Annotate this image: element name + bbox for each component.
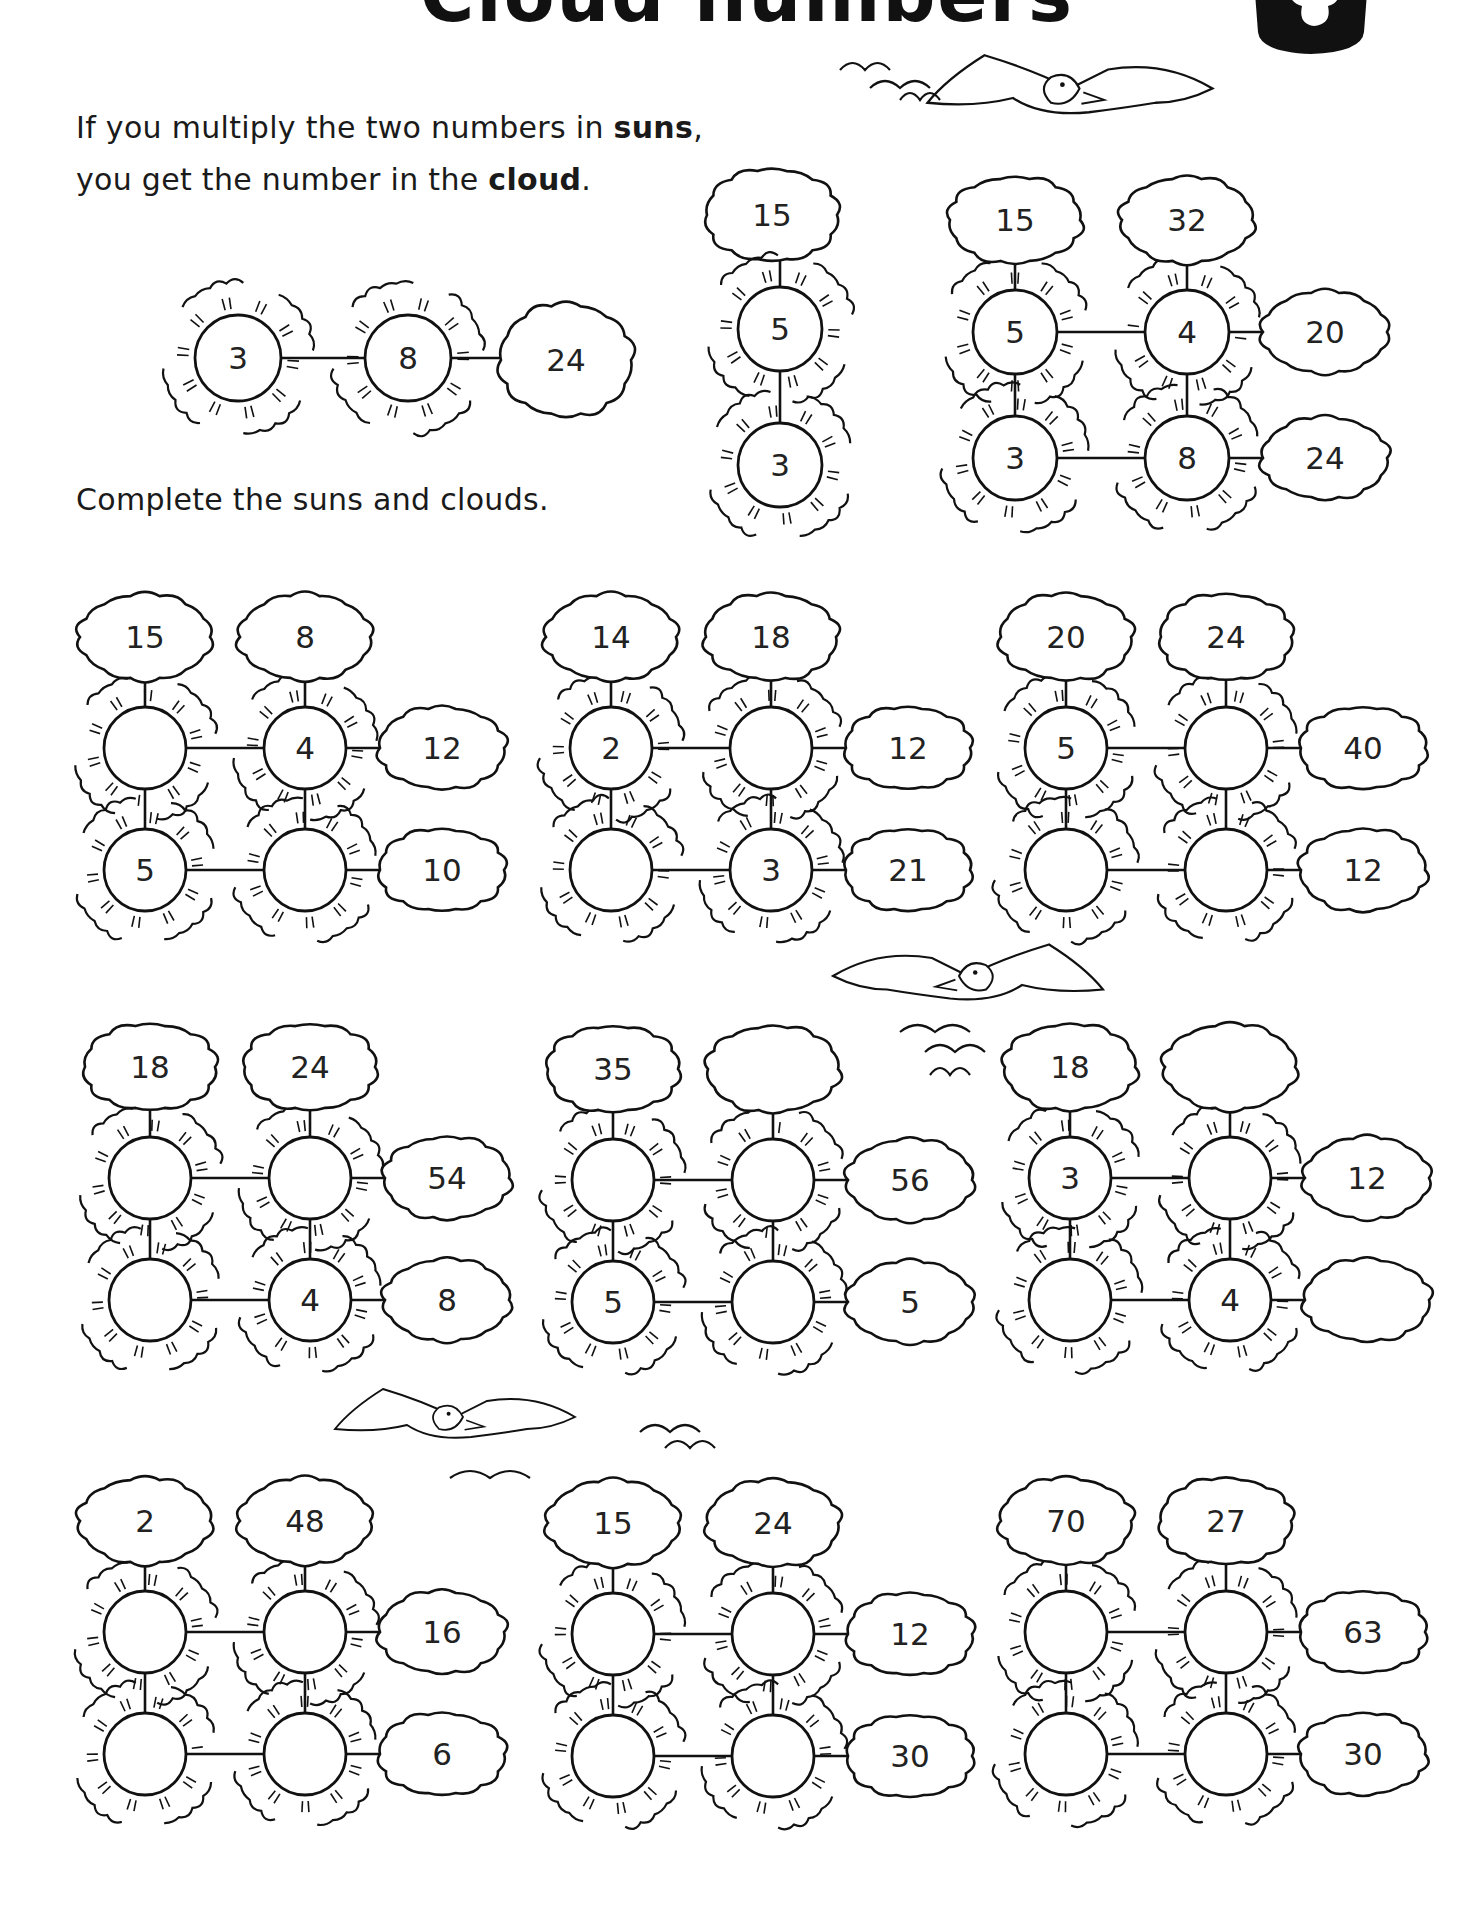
cloud-number: 24 — [753, 1505, 792, 1541]
cloud-top-left: 15 — [544, 1478, 681, 1569]
sun-number: 3 — [770, 447, 790, 483]
bird-icon — [335, 1389, 575, 1438]
sun-icon — [572, 1139, 654, 1221]
sun-number: 4 — [1220, 1282, 1240, 1318]
cloud-number: 16 — [422, 1614, 461, 1650]
cloud-number: 12 — [888, 730, 927, 766]
sun-icon — [1029, 1259, 1111, 1341]
wind-wave-icon — [930, 1068, 970, 1075]
cloud-number: 40 — [1343, 730, 1382, 766]
wind-wave-icon — [665, 1441, 715, 1448]
cloud-number: 20 — [1046, 619, 1085, 655]
sun-number: 3 — [1060, 1160, 1080, 1196]
cloud-number: 48 — [285, 1503, 324, 1539]
sun-icon — [104, 1591, 186, 1673]
puzzle-artwork: 38241553543815322024 4515812102314181221… — [0, 0, 1484, 1921]
cloud-right-bottom: 24 — [1259, 415, 1390, 500]
cloud-top-right: 27 — [1159, 1477, 1295, 1564]
sun-icon — [572, 1715, 654, 1797]
cloud-top-left: 70 — [997, 1476, 1135, 1565]
puzzles-group: 4515812102314181221520244012418245485355… — [75, 592, 1433, 1830]
sun-number: 3 — [761, 852, 781, 888]
sun-number: 3 — [1005, 440, 1025, 476]
sun-icon — [264, 1713, 346, 1795]
sun-number: 5 — [603, 1284, 623, 1320]
sun-icon — [1185, 1713, 1267, 1795]
example-column: 1553 — [705, 169, 854, 536]
sun-icon — [104, 707, 186, 789]
sun-icon — [1185, 829, 1267, 911]
cloud-right-bottom[interactable] — [1301, 1257, 1432, 1342]
cloud-number: 56 — [890, 1162, 929, 1198]
cloud-top-left: 35 — [546, 1026, 681, 1112]
cloud-number: 63 — [1343, 1614, 1382, 1650]
cloud-number: 15 — [125, 619, 164, 655]
wind-wave-icon — [870, 81, 930, 88]
cloud-number: 5 — [900, 1284, 920, 1320]
cloud-number: 27 — [1206, 1503, 1245, 1539]
example-cloud: 24 — [497, 302, 635, 418]
example-row: 3824 — [163, 279, 635, 436]
wind-wave-icon — [840, 63, 890, 70]
cloud-number: 12 — [1347, 1160, 1386, 1196]
sun-icon — [732, 1593, 814, 1675]
cloud-top-left: 14 — [542, 592, 679, 682]
cloud-top-right[interactable] — [1161, 1022, 1298, 1112]
sun-number: 5 — [1056, 730, 1076, 766]
sun-icon — [1025, 829, 1107, 911]
sun-icon — [732, 1261, 814, 1343]
puzzle-5: 535565 — [539, 1025, 975, 1374]
cloud-number: 2 — [135, 1503, 155, 1539]
sun-icon — [264, 829, 346, 911]
wind-wave-icon — [450, 1471, 530, 1478]
wind-wave-icon — [900, 1025, 970, 1032]
cloud-top-right: 24 — [1159, 594, 1294, 680]
cloud-top-right: 18 — [702, 593, 840, 681]
sun-number: 8 — [398, 340, 418, 376]
puzzle-1: 451581210 — [75, 592, 508, 943]
cloud-right-bottom: 30 — [847, 1715, 975, 1797]
sun-icon — [1189, 1137, 1271, 1219]
cloud-number: 24 — [1206, 619, 1245, 655]
bird-icon — [928, 55, 1213, 113]
sun-icon — [269, 1137, 351, 1219]
sun-icon — [1185, 707, 1267, 789]
puzzle-7: 248166 — [75, 1476, 508, 1826]
cloud-number: 15 — [995, 202, 1034, 238]
cloud-right-top: 12 — [377, 706, 508, 790]
cloud-icon — [1161, 1022, 1298, 1112]
cloud-top-right[interactable] — [705, 1025, 842, 1113]
cloud-right-top: 40 — [1299, 707, 1427, 789]
cloud-number: 12 — [1343, 852, 1382, 888]
bird-icon — [833, 945, 1103, 1000]
cloud-top-right: 32 — [1118, 176, 1256, 266]
cloud-number: 24 — [290, 1049, 329, 1085]
cloud-right-top: 56 — [844, 1137, 975, 1223]
sun-icon — [732, 1715, 814, 1797]
cloud-top-left: 20 — [997, 593, 1135, 681]
cloud-icon — [1301, 1257, 1432, 1342]
cloud-number: 14 — [591, 619, 630, 655]
cloud-right-top: 12 — [846, 1592, 975, 1674]
cloud-right-bottom: 8 — [381, 1257, 512, 1343]
cloud-top-left: 15 — [76, 592, 213, 683]
sun-icon — [1025, 1591, 1107, 1673]
cloud-number: 8 — [295, 619, 315, 655]
sun-number: 4 — [295, 730, 315, 766]
puzzle-9: 70276330 — [993, 1476, 1429, 1827]
cloud-top-left: 15 — [947, 177, 1084, 264]
cloud-number: 8 — [437, 1282, 457, 1318]
sun-number: 4 — [300, 1282, 320, 1318]
cloud-right-top: 12 — [1301, 1135, 1431, 1221]
cloud-number: 24 — [546, 342, 585, 378]
wind-wave-icon — [925, 1045, 985, 1052]
cloud-right-bottom: 21 — [844, 829, 972, 911]
cloud-top-right: 24 — [704, 1478, 842, 1567]
puzzle-4: 41824548 — [80, 1024, 513, 1372]
cloud-icon — [705, 1025, 842, 1113]
cloud-top-left: 2 — [76, 1476, 213, 1566]
cloud-number: 6 — [432, 1736, 452, 1772]
cloud-number: 18 — [1050, 1049, 1089, 1085]
cloud-number: 10 — [422, 852, 461, 888]
cloud-number: 24 — [1305, 440, 1344, 476]
